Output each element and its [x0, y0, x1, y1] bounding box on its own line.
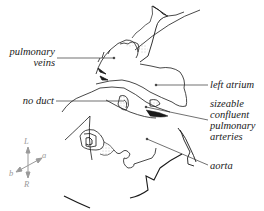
aorta-wall [178, 128, 196, 166]
compass-label-lower-left: b [9, 168, 13, 178]
compass-label-bottom: R [24, 179, 29, 189]
label-line: pulmonary [210, 120, 256, 131]
label-line: pulmonary [2, 46, 55, 57]
orientation-compass [16, 147, 42, 178]
label-line: confluent [210, 109, 256, 120]
label-line: arteries [210, 131, 256, 142]
aortic-root-structure [80, 130, 156, 168]
heart-outline [62, 10, 200, 208]
pulmonary-artery-confluence [106, 96, 168, 119]
label-text: no duct [23, 95, 54, 106]
label-text: aorta [210, 160, 233, 171]
upper-vessel-structure [132, 6, 184, 62]
label-aorta: aorta [210, 160, 233, 171]
label-line: sizeable [210, 98, 256, 109]
label-sizeable-confluent-pulmonary-arteries: sizeable confluent pulmonary arteries [210, 98, 256, 142]
label-line: veins [2, 57, 55, 68]
label-pulmonary-veins: pulmonary veins [2, 46, 55, 68]
label-left-atrium: left atrium [210, 79, 254, 90]
compass-label-upper-right: a [42, 150, 46, 160]
pulmonary-veins-structure [96, 40, 148, 81]
left-atrium-structure [96, 64, 187, 112]
label-no-duct: no duct [2, 95, 54, 106]
compass-label-top: L [24, 136, 29, 146]
leader-aorta [147, 139, 208, 165]
leader-lines [56, 57, 208, 165]
label-text: left atrium [210, 79, 254, 90]
